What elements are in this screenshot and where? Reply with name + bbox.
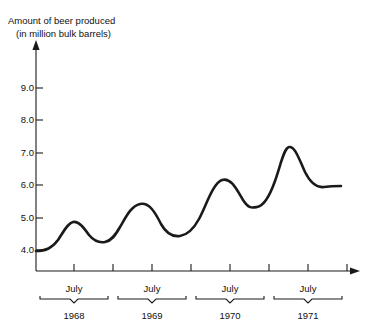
year-brace-1970 xyxy=(196,296,264,303)
data-series-beer-produced xyxy=(36,147,341,251)
chart-page: Amount of beer produced (in million bulk… xyxy=(0,0,381,329)
chart-plot-area xyxy=(0,0,381,329)
x-axis-ticks xyxy=(74,264,347,271)
y-axis xyxy=(32,40,39,271)
year-brace-1968 xyxy=(40,296,108,303)
x-axis xyxy=(36,267,360,274)
year-brace-1971 xyxy=(274,296,342,303)
y-axis-ticks xyxy=(36,88,43,250)
year-brace-1969 xyxy=(118,296,186,303)
